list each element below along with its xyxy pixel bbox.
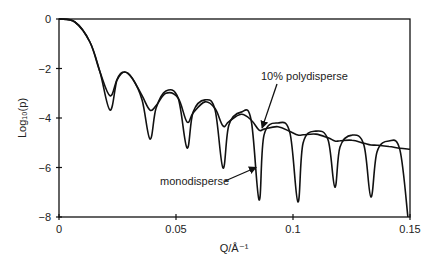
y-tick-label: −6	[38, 162, 51, 174]
x-tick-label: 0.05	[165, 223, 186, 235]
x-tick-label: 0.1	[285, 223, 300, 235]
annotation-arrow	[262, 84, 277, 128]
y-tick-label: −4	[38, 112, 51, 124]
y-axis-label: Log₁₀(p)	[16, 98, 28, 138]
annotation-layer: 10% polydispersemonodisperse	[160, 70, 348, 187]
annotation-label: 10% polydisperse	[261, 70, 348, 82]
annotation-label: monodisperse	[160, 175, 229, 187]
x-axis-label: Q/Å⁻¹	[220, 242, 249, 254]
y-tick-label: 0	[45, 13, 51, 25]
x-tick-label: 0	[56, 223, 62, 235]
chart: 0−2−4−6−8 00.050.10.15 10% polydispersem…	[0, 0, 434, 266]
x-tick-label: 0.15	[399, 223, 420, 235]
series-layer	[59, 19, 410, 217]
y-tick-label: −8	[38, 211, 51, 223]
y-tick-label: −2	[38, 63, 51, 75]
series-10-polydisperse	[59, 19, 410, 149]
annotation-arrow	[225, 168, 256, 182]
